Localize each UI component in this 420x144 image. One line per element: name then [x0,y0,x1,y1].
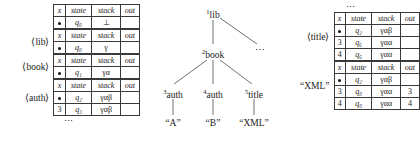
cell-state: q₃ [65,104,92,116]
cell-out: 4 [400,98,419,110]
cell-state: q₀ [345,98,372,110]
cell-out [120,92,139,104]
cell-out [120,42,139,54]
table-header-row: x state stack out [54,30,140,42]
cell-state: q₁ [65,67,92,79]
table-header-row: x state stack out [334,62,420,74]
config-block-label: “XML” [282,81,334,91]
cell-x: 3 [54,104,65,116]
tree-leaf-b: “B” [206,118,221,128]
table-row: q₁ γα [54,67,140,79]
column-header-stack: stack [92,5,121,17]
cell-state: q₂ [345,74,372,86]
cell-out [120,104,139,116]
cell-state: q₀ [65,42,92,54]
parse-tree: 1lib ⋯ 2book 3auth 4auth 5title “A” “B” … [150,0,280,144]
column-header-state: state [65,5,92,17]
column-header-x: x [54,55,65,67]
cell-stack: γ [92,42,121,54]
column-header-x: x [54,5,65,17]
config-block: ⟨title⟩ x state stack out q₂ γαβ 3 q₆ [282,12,420,61]
column-header-out: out [400,13,419,25]
column-header-out: out [120,55,139,67]
table-row: q₀ ⊥ [54,17,140,29]
cell-state: q₀ [345,86,372,98]
cell-state: q₆ [345,49,372,61]
tree-node-ellipsis: ⋯ [255,44,265,55]
cell-out [400,74,419,86]
cell-stack: γαα [372,86,401,98]
tree-edge-book-title [220,60,252,84]
config-table: x state stack out q₁ γα [53,54,140,79]
cell-x: 3 [334,37,345,49]
column-header-stack: stack [92,55,121,67]
cell-out [120,17,139,29]
config-block: “XML” x state stack out q₂ γαβ 3 q₀ [282,61,420,110]
column-header-x: x [54,80,65,92]
column-header-state: state [65,55,92,67]
config-table: x state stack out q₀ ⊥ [53,4,140,29]
table-row: 3 q₆ γαα [334,37,420,49]
table-header-row: x state stack out [54,55,140,67]
tree-node-title: 5title [245,88,263,100]
tree-node-lib: 1lib [206,8,219,20]
tree-leaf-xml: “XML” [239,118,269,128]
column-header-stack: stack [372,13,401,25]
tree-node-label: title [248,90,263,100]
tree-node-auth-2: 4auth [203,88,223,100]
tree-edge-lib-dots [220,18,257,44]
config-block: ⟨lib⟩ x state stack out q₀ γ [0,29,140,54]
column-header-state: state [345,13,372,25]
table-row: 4 q₆ γαα [334,49,420,61]
column-header-state: state [65,80,92,92]
bullet-icon [58,72,61,75]
config-block: x state stack out q₀ ⊥ [0,4,140,29]
column-header-stack: stack [372,62,401,74]
cell-stack: γαβ [372,74,401,86]
table-header-row: x state stack out [54,5,140,17]
config-table: x state stack out q₂ γαβ 3 q₀ γαα 3 [334,61,420,110]
table-row: q₂ γαβ [334,25,420,37]
cell-state: q₆ [345,37,372,49]
column-header-x: x [334,62,345,74]
config-block: ⟨auth⟩ x state stack out q₂ γαβ 3 q₃ [0,79,140,116]
left-configuration-panel: x state stack out q₀ ⊥ ⟨lib⟩ x state [0,4,140,126]
config-block-label: ⟨auth⟩ [0,92,53,103]
cell-x [54,92,65,104]
tree-edge-book-auth1 [174,60,207,84]
column-header-x: x [54,30,65,42]
table-row: q₀ γ [54,42,140,54]
column-header-stack: stack [92,80,121,92]
table-row: 3 q₀ γαα 3 [334,86,420,98]
tree-node-label: auth [166,90,182,100]
cell-state: q₀ [65,17,92,29]
cell-stack: γαβ [92,104,121,116]
cell-x [334,25,345,37]
bullet-icon [338,79,341,82]
left-bottom-ellipsis: ⋯ [0,116,139,126]
bullet-icon [58,47,61,50]
column-header-x: x [334,13,345,25]
cell-stack: γαα [372,49,401,61]
bullet-icon [58,97,61,100]
config-block-label: ⟨title⟩ [282,31,334,42]
column-header-out: out [120,30,139,42]
cell-x: 4 [334,49,345,61]
config-table: x state stack out q₂ γαβ 3 q₆ γαα [334,12,420,61]
cell-stack: γαα [372,98,401,110]
cell-state: q₂ [345,25,372,37]
config-table: x state stack out q₂ γαβ 3 q₃ γαβ [53,79,140,116]
table-row: q₂ γαβ [334,74,420,86]
tree-node-label: book [205,50,224,60]
config-table: x state stack out q₀ γ [53,29,140,54]
table-header-row: x state stack out [54,80,140,92]
cell-stack: γαβ [372,25,401,37]
figure-root: x state stack out q₀ ⊥ ⟨lib⟩ x state [0,0,420,144]
cell-x [334,74,345,86]
tree-leaf-a: “A” [165,118,180,128]
config-block-label: ⟨book⟩ [0,61,53,72]
cell-out [400,49,419,61]
column-header-state: state [65,30,92,42]
cell-x: 4 [334,98,345,110]
column-header-out: out [120,80,139,92]
